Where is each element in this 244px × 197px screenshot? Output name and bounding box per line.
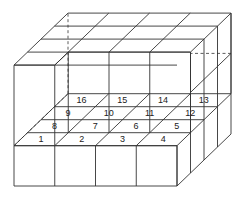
cell-label: 5 [174, 121, 179, 131]
cell-label: 16 [77, 95, 87, 105]
cell-label: 10 [104, 108, 114, 118]
cell-label: 8 [52, 121, 57, 131]
cell-label: 15 [117, 95, 127, 105]
cell-label: 11 [145, 108, 154, 118]
cell-label: 4 [161, 134, 166, 144]
cube-block-diagram: 12348765910111216151413 [0, 0, 244, 197]
cell-label: 13 [199, 95, 209, 105]
cell-label: 6 [134, 121, 139, 131]
cell-label: 3 [120, 134, 125, 144]
cell-label: 12 [185, 108, 195, 118]
cell-label: 7 [93, 121, 98, 131]
cell-label: 1 [39, 134, 44, 144]
cell-label: 9 [66, 108, 71, 118]
cell-label: 14 [158, 95, 168, 105]
cell-label: 2 [79, 134, 84, 144]
